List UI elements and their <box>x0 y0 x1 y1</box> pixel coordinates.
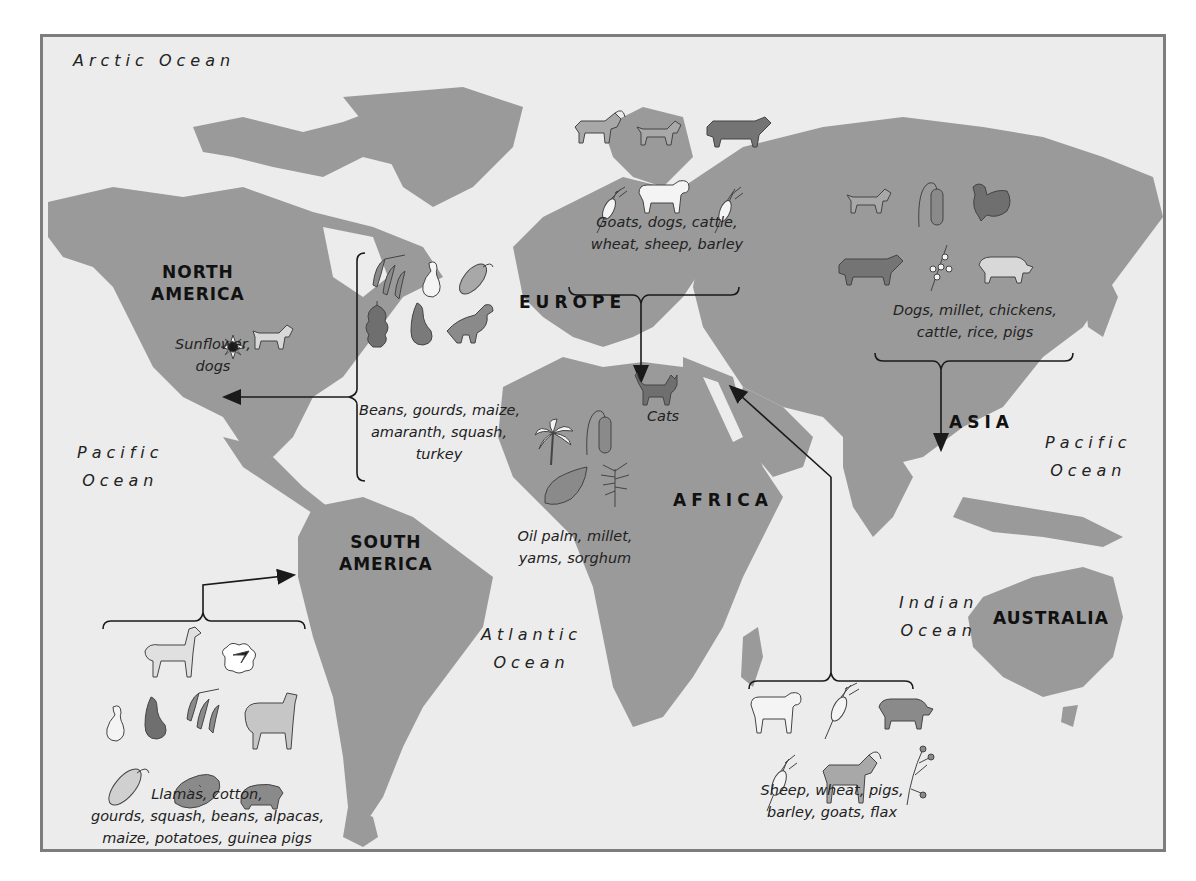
llama-icon <box>145 627 201 677</box>
maize-icon <box>455 259 493 298</box>
caption-europe: Goats, dogs, cattle, wheat, sheep, barle… <box>577 211 757 255</box>
south-america-arrow <box>203 575 293 613</box>
world-map <box>43 37 1163 849</box>
turkey-icon <box>447 305 493 343</box>
sheep-icon <box>751 693 801 733</box>
alpaca-icon <box>245 693 297 749</box>
beans-icon <box>187 689 219 733</box>
label-indian-ocean: Indian Ocean <box>899 589 978 645</box>
label-atlantic-ocean: Atlantic Ocean <box>481 621 582 677</box>
label-africa: AFRICA <box>673 489 773 511</box>
caption-south-america: Llamas, cotton, gourds, squash, beans, a… <box>91 783 323 849</box>
gourd-icon <box>107 706 124 741</box>
se-asia-islands <box>953 497 1123 547</box>
australia <box>968 567 1123 697</box>
tasmania <box>1061 705 1078 727</box>
south-america-bracket <box>103 613 305 629</box>
squash-icon <box>145 697 166 739</box>
label-asia: ASIA <box>949 411 1014 433</box>
caption-north-america: Sunflower, dogs <box>163 333 263 377</box>
label-arctic-ocean: Arctic Ocean <box>73 47 235 75</box>
caption-africa: Oil palm, millet, yams, sorghum <box>505 525 645 569</box>
caption-fertile-crescent: Sheep, wheat, pigs, barley, goats, flax <box>747 779 917 823</box>
map-frame: Arctic Ocean Pacific Ocean Pacific Ocean… <box>40 34 1166 852</box>
cotton-icon <box>222 643 255 673</box>
label-australia: AUSTRALIA <box>993 607 1109 629</box>
madagascar <box>741 627 763 687</box>
label-pacific-ocean-east: Pacific Ocean <box>1045 429 1132 485</box>
squash-icon <box>411 303 432 345</box>
label-pacific-ocean-west: Pacific Ocean <box>77 439 164 495</box>
patagonia <box>343 807 378 847</box>
caption-egypt: Cats <box>633 405 693 427</box>
pig-icon <box>879 699 933 729</box>
label-south-america: SOUTH AMERICA <box>339 531 433 575</box>
wheat-icon <box>825 683 859 739</box>
label-europe: EUROPE <box>519 291 626 313</box>
fertile-crescent-bracket <box>749 673 913 689</box>
caption-asia: Dogs, millet, chickens, cattle, rice, pi… <box>885 299 1065 343</box>
label-north-america: NORTH AMERICA <box>151 261 245 305</box>
caption-mesoamerica: Beans, gourds, maize, amaranth, squash, … <box>359 399 519 465</box>
